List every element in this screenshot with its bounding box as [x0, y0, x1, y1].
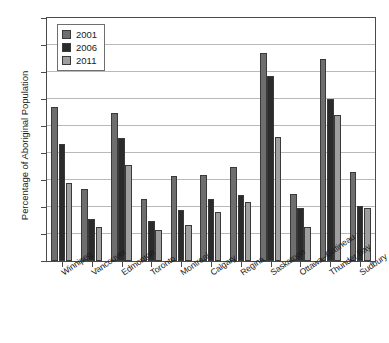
- bar-group: [107, 18, 137, 261]
- legend-label: 2006: [76, 43, 97, 53]
- bar-2011: [245, 202, 252, 261]
- bar-2011: [66, 183, 73, 261]
- legend-swatch-icon: [62, 30, 71, 39]
- bar-2011: [96, 227, 103, 261]
- bar-group: [196, 18, 226, 261]
- bar-group: [226, 18, 256, 261]
- bar-2001: [171, 176, 178, 261]
- bar-2011: [125, 165, 132, 261]
- bar-2006: [267, 76, 274, 261]
- bar-2001: [111, 113, 118, 262]
- bar-2011: [275, 137, 282, 261]
- legend: 200120062011: [57, 24, 105, 71]
- bar-group: [256, 18, 286, 261]
- bar-2006: [238, 195, 245, 261]
- legend-item: 2001: [62, 28, 97, 41]
- bar-2006: [208, 199, 215, 261]
- bar-2001: [51, 107, 58, 261]
- legend-swatch-icon: [62, 43, 71, 52]
- y-axis-label: Percentage of Aboriginal Population: [19, 16, 30, 276]
- legend-swatch-icon: [62, 56, 71, 65]
- legend-label: 2011: [76, 56, 96, 66]
- bar-2001: [350, 172, 357, 261]
- bar-group: [315, 18, 345, 261]
- legend-item: 2011: [62, 54, 97, 67]
- bar-2006: [59, 144, 66, 261]
- bar-2011: [215, 212, 222, 261]
- bar-2001: [260, 53, 267, 261]
- bar-group: [166, 18, 196, 261]
- bar-2001: [230, 167, 237, 262]
- bar-2001: [200, 175, 207, 261]
- bar-2011: [185, 225, 192, 261]
- legend-item: 2006: [62, 41, 97, 54]
- bar-2001: [320, 59, 327, 262]
- bar-2006: [118, 138, 125, 261]
- legend-label: 2001: [76, 30, 97, 40]
- bar-2011: [155, 230, 162, 261]
- bar-group: [136, 18, 166, 261]
- bar-group: [345, 18, 375, 261]
- bar-2011: [304, 227, 311, 261]
- bar-group: [286, 18, 316, 261]
- bar-2006: [178, 210, 185, 261]
- bar-2006: [327, 99, 334, 261]
